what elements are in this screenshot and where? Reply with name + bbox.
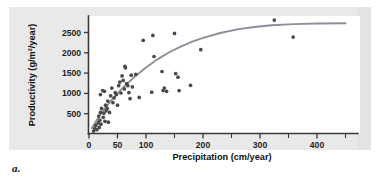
x-tick-label-400: 400	[310, 140, 325, 150]
data-point	[110, 86, 114, 90]
x-tick-label-50: 50	[113, 140, 123, 150]
data-point	[117, 84, 121, 88]
data-point	[150, 90, 154, 94]
data-point	[99, 93, 103, 97]
data-point	[111, 101, 115, 105]
data-point	[174, 72, 178, 76]
y-axis-ticks: 500 1000 1500 2000 2500	[62, 28, 89, 119]
data-point	[108, 111, 112, 115]
data-point	[104, 103, 108, 107]
data-point	[101, 115, 105, 119]
data-point	[99, 111, 103, 115]
data-point	[120, 74, 124, 78]
y-tick-label-500: 500	[67, 109, 82, 119]
data-point	[126, 84, 130, 88]
data-point	[137, 96, 141, 100]
data-point	[165, 90, 169, 94]
data-point	[119, 91, 123, 95]
x-tick-label-100: 100	[139, 140, 154, 150]
data-point	[107, 120, 111, 124]
data-point	[128, 97, 132, 101]
y-tick-label-2000: 2000	[62, 48, 81, 58]
data-point	[99, 122, 103, 126]
data-point	[105, 107, 109, 111]
data-point	[127, 91, 131, 95]
data-point	[112, 96, 116, 100]
data-point	[177, 89, 181, 93]
data-point	[291, 35, 295, 39]
data-point	[109, 94, 113, 98]
data-point	[100, 107, 104, 111]
scatter-chart: 500 1000 1500 2000 2500 0 50 100 200 300…	[0, 0, 383, 182]
data-point	[141, 38, 145, 42]
data-point	[121, 79, 125, 83]
data-point	[130, 85, 134, 89]
y-axis-title: Productivity (g/m²/year)	[27, 24, 37, 127]
data-point	[97, 126, 101, 130]
data-point	[118, 80, 122, 84]
data-point	[272, 18, 276, 22]
data-point	[129, 73, 133, 77]
data-point	[160, 70, 164, 74]
x-tick-label-0: 0	[87, 140, 92, 150]
x-axis-ticks: 0 50 100 200 300 400	[87, 134, 346, 151]
figure-root: 500 1000 1500 2000 2500 0 50 100 200 300…	[0, 0, 383, 182]
data-point	[176, 75, 180, 79]
data-point	[134, 72, 138, 76]
scatter-point-group	[92, 18, 295, 133]
x-axis-title: Precipitation (cm/year)	[172, 152, 271, 162]
data-point	[123, 87, 127, 91]
data-point	[106, 99, 110, 103]
data-point	[97, 114, 101, 118]
data-point	[103, 90, 107, 94]
data-point	[189, 83, 193, 87]
data-point	[151, 34, 155, 38]
figure-caption-label: a.	[12, 162, 21, 174]
x-tick-label-300: 300	[253, 140, 268, 150]
chart-axes	[89, 16, 359, 134]
data-point	[152, 55, 156, 59]
data-point	[116, 103, 120, 107]
data-point	[124, 66, 128, 70]
y-tick-label-1500: 1500	[62, 68, 81, 78]
y-tick-label-2500: 2500	[62, 28, 81, 38]
data-point	[98, 118, 102, 122]
data-point	[199, 48, 203, 52]
y-tick-label-1000: 1000	[62, 88, 81, 98]
data-point	[162, 86, 166, 90]
data-point	[115, 93, 119, 97]
data-point	[173, 32, 177, 36]
data-point	[103, 119, 107, 123]
x-tick-label-200: 200	[196, 140, 211, 150]
